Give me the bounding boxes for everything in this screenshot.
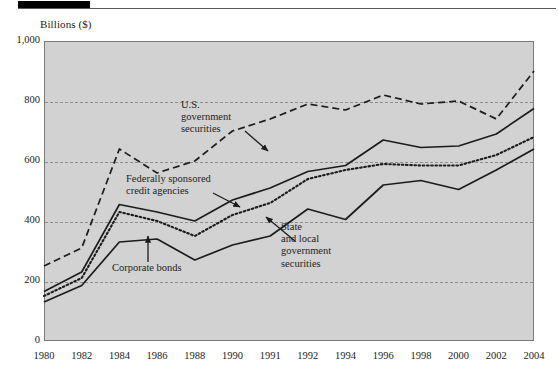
x-axis-tick-label: 1996	[373, 350, 394, 361]
y-axis-tick-label: 600	[0, 154, 40, 165]
x-axis-tick-label: 2002	[486, 350, 507, 361]
chart-plot-area	[44, 41, 534, 341]
x-axis-tick-label: 1986	[147, 350, 168, 361]
annotation-federally-sponsored-credit-agencies: Federally sponsored credit agencies	[126, 173, 211, 197]
x-axis-tick-label: 2000	[448, 350, 469, 361]
x-axis-tick-label: 1992	[297, 350, 318, 361]
y-axis-tick-label: 400	[0, 214, 40, 225]
gridline	[45, 102, 533, 103]
y-axis-tick-label: 200	[0, 274, 40, 285]
x-axis-tick-label: 1982	[71, 350, 92, 361]
x-axis-tick-label: 1980	[34, 350, 55, 361]
chart-gridlines	[45, 42, 533, 340]
y-axis-unit-label: Billions ($)	[40, 18, 92, 30]
x-axis-tick-label: 1984	[109, 350, 130, 361]
gridline	[45, 162, 533, 163]
x-axis-tick-label: 2004	[524, 350, 545, 361]
y-axis-tick-label: 0	[0, 334, 40, 345]
x-axis-tick-label: 1998	[410, 350, 431, 361]
y-axis-tick-label: 1,000	[0, 34, 40, 45]
annotation-corporate-bonds: Corporate bonds	[112, 262, 182, 274]
annotation-us-government-securities: U.S. government securities	[181, 99, 231, 136]
x-axis-tick-label: 1991	[260, 350, 281, 361]
y-axis-tick-label: 800	[0, 94, 40, 105]
annotation-state-and-local-government-securities: State and local government securities	[281, 221, 331, 270]
gridline	[45, 282, 533, 283]
x-axis-tick-label: 1990	[222, 350, 243, 361]
header-band	[0, 0, 558, 11]
x-axis-tick-label: 1988	[184, 350, 205, 361]
header-divider-rule	[18, 8, 556, 9]
x-axis-tick-label: 1994	[335, 350, 356, 361]
